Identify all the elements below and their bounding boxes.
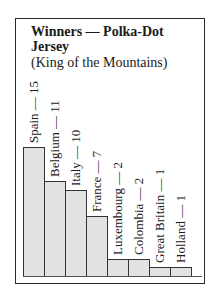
baseline [23, 276, 202, 277]
bar-label: Holland — 1 [173, 195, 189, 263]
title-line-2: Jersey [31, 39, 164, 54]
chart-subtitle: (King of the Mountains) [31, 55, 167, 70]
bar-label: France — 7 [89, 151, 105, 212]
bar-colombia [128, 259, 150, 277]
title-line-1: Winners — Polka-Dot [31, 24, 164, 39]
bar-label: Spain — 15 [26, 81, 42, 143]
bar-luxembourg [107, 259, 129, 277]
bar-label: Luxembourg — 2 [110, 162, 126, 255]
bar-spain [23, 147, 45, 277]
bar-label: Colombia — 2 [131, 178, 147, 255]
bar-belgium [44, 181, 66, 277]
bar-france [86, 216, 108, 277]
bar-italy [65, 190, 87, 277]
chart-title: Winners — Polka-Dot Jersey [31, 24, 164, 54]
bar-label: Belgium — 11 [47, 100, 63, 177]
bar-label: Italy — 10 [68, 130, 84, 186]
bar-label: Great Britain — 1 [152, 169, 168, 263]
